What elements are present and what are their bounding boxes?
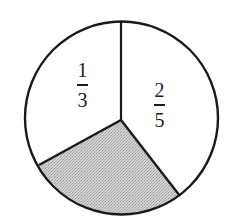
pie-diagram [0,0,239,222]
fraction-label-one-third: 1 3 [77,60,88,110]
fraction-bar [154,104,165,106]
fraction-denominator: 3 [78,90,88,110]
fraction-numerator: 1 [78,60,88,80]
fraction-label-two-fifths: 2 5 [154,80,165,130]
fraction-bar [77,84,88,86]
shaded-sector [39,119,180,214]
fraction-numerator: 2 [155,80,165,100]
fraction-denominator: 5 [155,110,165,130]
